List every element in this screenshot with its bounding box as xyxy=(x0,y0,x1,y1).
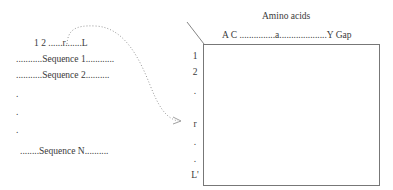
corner-diagonal-line xyxy=(187,22,204,44)
matrix-box xyxy=(204,45,380,186)
dotted-connector-curve xyxy=(67,26,178,121)
arrowhead-icon xyxy=(173,117,181,124)
diagram-graphics xyxy=(0,0,393,190)
